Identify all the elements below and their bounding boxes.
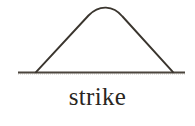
strike-label: strike xyxy=(0,83,195,110)
payoff-figure: strike xyxy=(0,0,195,126)
